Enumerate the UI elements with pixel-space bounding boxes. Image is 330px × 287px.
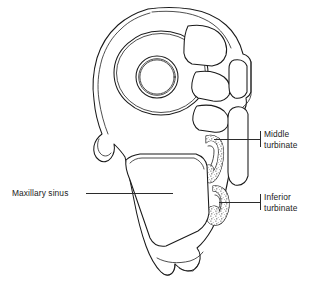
label-middle-turbinate-line1: Middle <box>264 129 290 139</box>
label-inferior-turbinate-line1: Inferior <box>264 192 291 202</box>
nasal-airway-main <box>228 107 248 185</box>
nasal-airway-superior <box>229 60 247 99</box>
label-maxillary-sinus: Maxillary sinus <box>12 188 68 198</box>
label-inferior-turbinate-line2: turbinate <box>264 203 298 213</box>
anatomical-figure: Middle turbinate Inferior turbinate Maxi… <box>0 0 330 287</box>
sinus-cross-section-svg: Middle turbinate Inferior turbinate Maxi… <box>0 0 330 287</box>
optic-ring-outer <box>136 56 178 98</box>
label-maxillary-sinus-line1: Maxillary sinus <box>12 188 68 198</box>
label-middle-turbinate-line2: turbinate <box>264 140 298 150</box>
